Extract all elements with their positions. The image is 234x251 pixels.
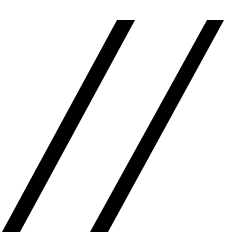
double-slash-figure: [0, 0, 234, 251]
